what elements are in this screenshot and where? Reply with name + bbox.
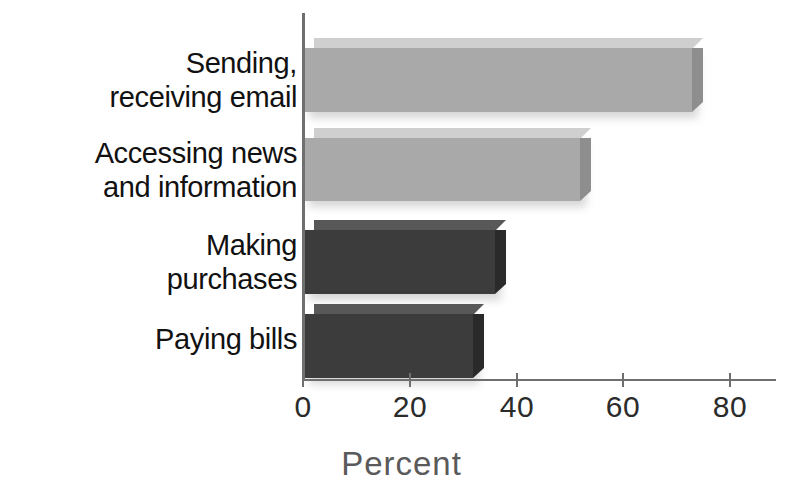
x-tick-label-60: 60 <box>588 390 658 424</box>
bar-0 <box>303 38 703 102</box>
bar-chart: Sending, receiving email Accessing news … <box>0 0 803 496</box>
x-tick-label-0: 0 <box>268 390 338 424</box>
bar-2 <box>303 220 508 284</box>
x-tick-60 <box>622 373 624 387</box>
bar-front-face-0 <box>303 48 692 112</box>
category-label-2: Making purchases <box>167 228 297 296</box>
x-tick-label-20: 20 <box>375 390 445 424</box>
x-tick-20 <box>409 373 411 387</box>
x-tick-80 <box>729 373 731 387</box>
x-tick-label-80: 80 <box>695 390 765 424</box>
category-label-3: Paying bills <box>155 322 297 356</box>
bar-side-face-3 <box>473 314 484 378</box>
bar-front-face-2 <box>303 230 495 294</box>
x-axis-title: Percent <box>0 445 803 483</box>
bar-front-face-3 <box>303 314 473 378</box>
bar-side-face-0 <box>692 48 703 112</box>
category-label-1: Accessing news and information <box>95 136 297 204</box>
bar-front-face-1 <box>303 138 580 201</box>
x-tick-label-40: 40 <box>482 390 552 424</box>
bar-3 <box>303 304 486 368</box>
x-tick-40 <box>516 373 518 387</box>
x-tick-0 <box>302 373 304 387</box>
y-axis-line <box>302 13 305 381</box>
plot-area: Sending, receiving email Accessing news … <box>0 0 803 496</box>
bar-side-face-2 <box>495 230 506 294</box>
bar-side-face-1 <box>580 138 591 201</box>
x-axis-line <box>302 379 776 381</box>
bar-1 <box>303 128 593 191</box>
category-label-0: Sending, receiving email <box>110 46 297 114</box>
